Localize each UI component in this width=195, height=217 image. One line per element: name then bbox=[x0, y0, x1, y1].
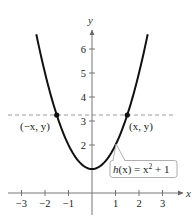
x-tick-label: 3 bbox=[160, 198, 165, 209]
point-left-label: (−x, y) bbox=[20, 120, 50, 133]
y-tick-label: 6 bbox=[81, 44, 86, 55]
point-left bbox=[54, 112, 59, 117]
x-axis-label: x bbox=[185, 187, 191, 199]
y-tick-label: 2 bbox=[81, 140, 86, 151]
x-tick-label: −2 bbox=[39, 198, 50, 209]
chart: −3−2−1123 x 23456 y (−x, y) (x, y) h(x) … bbox=[0, 0, 195, 217]
y-tick-label: 3 bbox=[81, 116, 86, 127]
y-tick-label: 5 bbox=[81, 68, 86, 79]
x-tick-label: −3 bbox=[16, 198, 27, 209]
x-tick-label: 2 bbox=[136, 198, 141, 209]
x-axis: −3−2−1123 x bbox=[8, 187, 191, 209]
point-right bbox=[125, 112, 130, 117]
y-axis-label: y bbox=[87, 14, 93, 26]
y-tick-label: 4 bbox=[81, 92, 87, 103]
x-tick-label: −1 bbox=[63, 198, 74, 209]
y-ticks: 23456 bbox=[81, 44, 95, 151]
x-tick-label: 1 bbox=[113, 198, 118, 209]
callout-label: h(x) = x2 + 1 bbox=[113, 162, 170, 176]
point-right-label: (x, y) bbox=[129, 120, 153, 133]
function-callout: h(x) = x2 + 1 bbox=[110, 144, 177, 178]
